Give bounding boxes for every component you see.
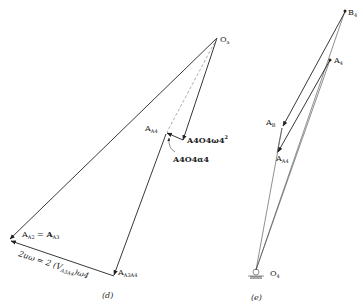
label-a4: A4 — [333, 56, 343, 66]
label-ab: AB — [265, 118, 276, 128]
ground-pivot-icon — [248, 269, 264, 279]
vector-tangential — [167, 133, 183, 140]
label-origin-oa: Oa — [220, 35, 230, 45]
point-a4 — [329, 59, 332, 62]
svg-text:2uω = 2 (VA3A4)ω4: 2uω = 2 (VA3A4)ω4 — [16, 249, 90, 282]
link-o4-a4 — [256, 60, 330, 270]
curved-leader-arrow — [169, 138, 175, 152]
vector-a4-aa4 — [278, 60, 330, 152]
caption-d: (d) — [102, 291, 113, 300]
vector-oa-to-aa2 — [10, 38, 217, 239]
link-o4-b4 — [256, 11, 345, 270]
label-coriolis: 2uω = 2 (VA3A4)ω4 — [16, 249, 90, 282]
label-a-a4-left: AA4 — [144, 124, 158, 134]
vector-oa-normal — [183, 38, 217, 140]
label-a-a4-right: AA4 — [275, 154, 289, 164]
label-b4: B4 — [348, 8, 357, 18]
caption-e: (e) — [251, 293, 262, 302]
label-tangential-term: A4O4α4 — [172, 154, 209, 164]
vector-aa4-to-aa3a4 — [114, 134, 166, 275]
label-o4: O4 — [270, 269, 280, 279]
label-normal-term: A4O4ω42 — [186, 134, 229, 145]
label-a-a3a4: AA3A4 — [117, 268, 137, 278]
dashed-oa-aa4 — [167, 38, 217, 132]
link-o4-ab — [256, 128, 282, 270]
kinematic-diagram: Oa AA4 A4O4ω42 A4O4α4 AA2 = AA3 AA3A4 2u… — [0, 0, 363, 305]
label-a-a2-equals-a-a3: AA2 = AA3 — [21, 229, 59, 240]
linkage-image — [248, 10, 347, 280]
point-b4 — [344, 10, 347, 13]
vector-b4-ab — [283, 12, 345, 126]
